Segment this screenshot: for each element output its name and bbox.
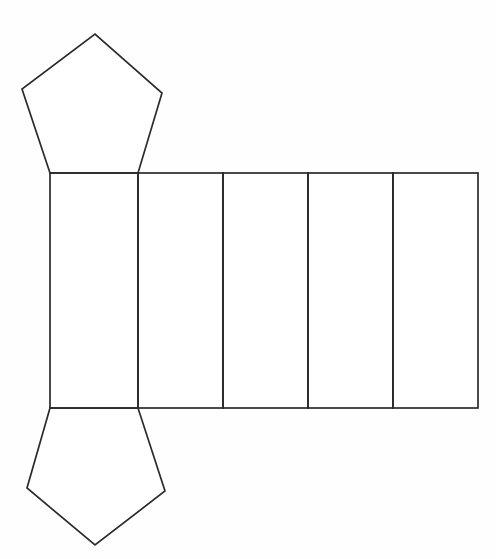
pentagon-top-face — [22, 34, 162, 173]
pentagonal-prism-net — [0, 0, 496, 559]
net-diagram-canvas — [0, 0, 496, 559]
rect-face-5 — [393, 173, 478, 408]
rect-face-4 — [308, 173, 393, 408]
rect-face-3 — [223, 173, 308, 408]
rect-face-2 — [138, 173, 223, 408]
pentagon-bottom-face — [27, 408, 165, 545]
rect-face-1 — [50, 173, 138, 408]
